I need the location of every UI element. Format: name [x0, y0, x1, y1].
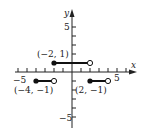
x-axis-arrow-icon [129, 70, 137, 75]
closed-dot-icon [51, 60, 56, 65]
point-label-neg2-1: (−2, 1) [37, 49, 69, 59]
step-function-graph: x y −5 5 5 −5 (−2, 1) (−4, −1) (2, −1) [0, 0, 141, 128]
x-axis-label: x [131, 60, 136, 70]
y-axis [70, 9, 77, 128]
point-label-neg4-neg1: (−4, −1) [14, 85, 53, 95]
open-dot-icon [51, 78, 56, 83]
y-axis-label: y [63, 8, 70, 18]
closed-dot-icon [87, 78, 92, 83]
segment-right [87, 78, 110, 83]
segment-left [33, 78, 56, 83]
open-dot-icon [87, 60, 92, 65]
y-tick-label-pos5: 5 [64, 22, 70, 32]
open-dot-icon [105, 78, 110, 83]
x-tick-label-pos5: 5 [114, 73, 120, 83]
point-label-2-neg1: (2, −1) [75, 85, 107, 95]
closed-dot-icon [33, 78, 38, 83]
y-tick-label-neg5: −5 [59, 113, 73, 123]
x-tick-label-neg5: −5 [13, 75, 27, 85]
y-axis-arrow-icon [70, 9, 75, 17]
